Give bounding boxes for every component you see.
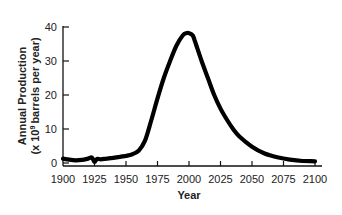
x-ticks: 190019251950197520002025205020752100 — [51, 161, 327, 185]
y-tick-label: 20 — [45, 89, 57, 101]
x-tick-label: 2100 — [303, 173, 327, 185]
x-tick-label: 1900 — [51, 173, 75, 185]
x-tick-label: 1975 — [145, 173, 169, 185]
y-tick-label: 40 — [45, 21, 57, 33]
y-axis-title: Annual Production (x 109barrels per year… — [16, 37, 41, 155]
x-tick-label: 2000 — [177, 173, 201, 185]
oil-production-chart: 010203040 190019251950197520002025205020… — [0, 0, 342, 215]
y-tick-label: 10 — [45, 123, 57, 135]
y-tick-label: 0 — [51, 157, 57, 169]
x-tick-label: 1950 — [114, 173, 138, 185]
x-tick-label: 2050 — [240, 173, 264, 185]
x-tick-label: 1925 — [82, 173, 106, 185]
y-axis-title-line1: Annual Production — [16, 47, 28, 146]
x-tick-label: 2075 — [271, 173, 295, 185]
y-axis-title-line2: (x 109barrels per year) — [29, 37, 41, 155]
y-tick-label: 30 — [45, 55, 57, 67]
production-curve — [63, 33, 315, 162]
x-tick-label: 2025 — [208, 173, 232, 185]
y-ticks: 010203040 — [45, 21, 69, 169]
x-axis-title: Year — [177, 189, 201, 201]
